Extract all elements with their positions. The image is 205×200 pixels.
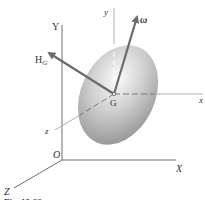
body-y-axis-label: y	[103, 7, 108, 17]
Z-axis-label: Z	[4, 186, 10, 197]
angular-momentum-label: HG	[35, 54, 47, 67]
body-x-axis-label: x	[198, 95, 203, 105]
angular-momentum-symbol: H	[35, 54, 42, 65]
Y-axis-label: Y	[52, 21, 59, 32]
origin-label: O	[53, 149, 60, 160]
caption-clip: Fig. 19-??	[4, 197, 42, 200]
rigid-body-diagram: Y O X Z G y x z ω HG Fig. 19-??	[0, 0, 205, 200]
angular-velocity-label: ω	[140, 14, 147, 25]
body-z-axis-label: z	[44, 126, 49, 136]
body-z-axis-outside	[55, 115, 80, 130]
ellipsoid-body	[62, 32, 173, 158]
X-axis-label: X	[175, 163, 183, 174]
figure-caption: Fig. 19-??	[4, 197, 42, 200]
center-of-mass-point	[112, 92, 115, 95]
center-of-mass-label: G	[110, 98, 117, 108]
angular-momentum-subscript: G	[42, 59, 47, 67]
Z-axis	[14, 160, 62, 188]
